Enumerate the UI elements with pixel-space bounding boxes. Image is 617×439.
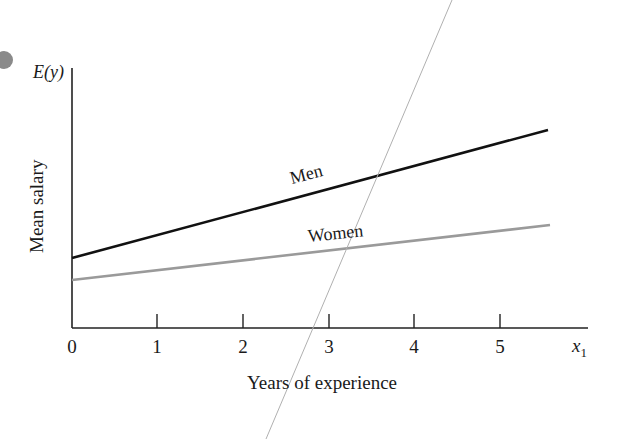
x-tick-label-4: 4 [409,336,419,358]
x-tick-label-2: 2 [238,336,248,358]
y-axis-title: Mean salary [26,160,48,253]
x-tick-label-5: 5 [495,336,505,358]
x-axis-symbol-subscript: 1 [580,345,587,360]
y-axis-symbol: E(y) [33,62,64,83]
x-tick-label-0: 0 [67,336,77,358]
x-axis-symbol: x1 [572,335,587,361]
x-tick-label-3: 3 [324,336,334,358]
decorative-dot [0,51,13,69]
x-axis-ticks [157,314,500,328]
x-axis-title: Years of experience [247,372,397,394]
x-tick-label-1: 1 [152,336,162,358]
